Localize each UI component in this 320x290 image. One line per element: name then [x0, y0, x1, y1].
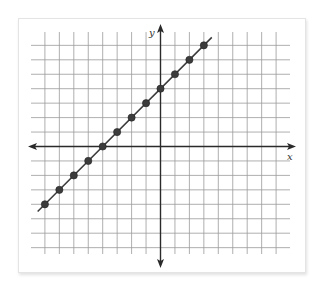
data-point [99, 143, 106, 150]
data-point [171, 71, 178, 78]
coordinate-plane: y x [0, 0, 320, 290]
data-point [128, 114, 135, 121]
axes [28, 24, 296, 268]
line-y-equals-x-plus-4 [38, 37, 212, 211]
plotted-line [38, 37, 212, 211]
data-point [157, 85, 164, 92]
data-point [114, 128, 121, 135]
y-axis-label: y [148, 27, 155, 38]
data-point [70, 172, 77, 179]
data-point [56, 186, 63, 193]
data-point [41, 201, 48, 208]
data-point [85, 157, 92, 164]
data-point [186, 56, 193, 63]
data-point [142, 100, 149, 107]
x-axis-label: x [287, 151, 293, 162]
data-point [200, 42, 207, 49]
